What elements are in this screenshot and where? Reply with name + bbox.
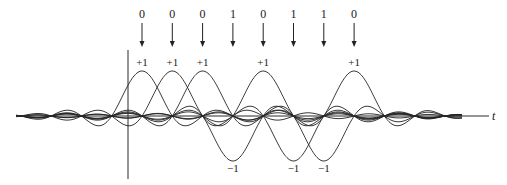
- amplitude-label: +1: [136, 56, 148, 68]
- amplitude-label: +1: [348, 56, 360, 68]
- arrow-head-icon: [352, 41, 357, 47]
- bit-value: 0: [139, 7, 145, 21]
- amplitude-label: −1: [227, 162, 239, 174]
- amplitude-label: +1: [166, 56, 178, 68]
- arrow-head-icon: [200, 41, 205, 47]
- bit-value: 0: [169, 7, 175, 21]
- arrow-head-icon: [291, 41, 296, 47]
- bit-value: 1: [230, 7, 236, 21]
- bit-value: 0: [351, 7, 357, 21]
- amplitude-label: −1: [288, 162, 300, 174]
- arrow-head-icon: [230, 41, 235, 47]
- symbol-annotations: 0+10+10+11−10+11−11−10+1: [136, 7, 360, 174]
- amplitude-label: +1: [257, 56, 269, 68]
- amplitude-label: −1: [318, 162, 330, 174]
- arrow-head-icon: [140, 41, 145, 47]
- arrow-head-icon: [261, 41, 266, 47]
- diagram-canvas: t 0+10+10+11−10+11−11−10+1: [0, 0, 507, 185]
- bit-value: 1: [321, 7, 327, 21]
- amplitude-label: +1: [197, 56, 209, 68]
- arrow-head-icon: [321, 41, 326, 47]
- bit-value: 0: [260, 7, 266, 21]
- arrow-head-icon: [170, 41, 175, 47]
- time-axis-label: t: [492, 109, 496, 123]
- sinc-pulse-diagram: t 0+10+10+11−10+11−11−10+1: [0, 0, 507, 185]
- bit-value: 0: [200, 7, 206, 21]
- bit-value: 1: [291, 7, 297, 21]
